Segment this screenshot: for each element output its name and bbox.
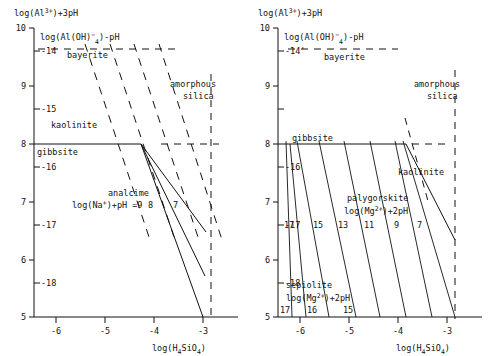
right-x-ticks [300,317,447,323]
right-label-gibbsite: gibbsite [292,133,333,143]
right-x-axis-label: log(H4SiO4) [396,343,450,356]
right-label-palygorskite: palygorskite [347,193,408,203]
right-mg-number-17: 17 [284,220,294,230]
right-sepiolite-number-15: 15 [343,305,353,315]
right-xtick--5: -5 [344,326,354,336]
left-series-number-7: 7 [173,200,178,210]
right-mg-boundary-11 [344,141,380,317]
left-yinner--17: -17 [41,220,56,230]
right-ytick-9: 9 [265,81,270,91]
left-xtick--4: -4 [149,326,159,336]
left-x-axis-label: log(H4SiO4) [152,343,206,356]
left-label-na-series: log(Na+)+pH =9 [72,199,142,211]
right-xtick--4: -4 [393,326,403,336]
right-ytick-8: 8 [265,139,270,149]
left-analcime-boundary-8 [141,144,205,276]
left-xtick--5: -5 [100,326,110,336]
right-xtick--6: -6 [295,326,305,336]
right-mg-number-15: 15 [313,220,323,230]
right-label-amorphous-silica-line1: amorphous [414,79,460,89]
right-y-outer-ticks [273,28,278,317]
left-xtick--3: -3 [198,326,208,336]
right-ytick-5: 5 [265,312,270,322]
left-yinner--16: -16 [41,162,56,172]
right-y-axis-inner-label: log(Al(OH)−4)-pH [284,31,364,46]
left-plot-svg: 10 9 8 7 6 5 -14 -15 -16 -17 -18 [0,0,244,356]
left-ytick-9: 9 [21,81,26,91]
right-ytick-7: 7 [265,197,270,207]
left-ytick-10: 10 [16,23,26,33]
left-axis-lines [34,28,238,317]
right-y-axis-outer-label: log(Al3+)+3pH [258,7,322,19]
left-ytick-7: 7 [21,197,26,207]
left-yinner--15: -15 [41,104,56,114]
left-label-amorphous-silica-line1: amorphous [170,79,216,89]
left-label-analcime: analcime [108,188,149,198]
figure-container: 10 9 8 7 6 5 -14 -15 -16 -17 -18 [0,0,488,356]
right-mg-number-13: 13 [338,220,348,230]
right-mg-number-9: 9 [394,220,399,230]
right-mg-number-11: 11 [364,220,374,230]
right-axis-lines [278,28,482,317]
left-y-outer-ticks [29,28,34,317]
left-x-ticks [56,317,203,323]
left-label-amorphous-silica-line2: silica [183,91,214,101]
right-sepiolite-number-17: 17 [280,305,290,315]
left-y-axis-outer-label: log(Al3+)+3pH [14,7,78,19]
right-plot-svg: 10 9 8 7 6 5 -14' -16 -17 -18 [244,0,488,356]
left-ytick-6: 6 [21,255,26,265]
right-xtick--3: -3 [442,326,452,336]
right-kaolinite-diagonal [406,144,455,240]
right-label-palygorskite-series: log(Mg2+)+2pH [344,205,408,217]
right-label-bayerite: bayerite [324,52,365,62]
right-yinner--14: -14' [285,46,305,56]
right-ytick-10: 10 [260,23,270,33]
left-label-gibbsite: gibbsite [37,147,78,157]
left-yinner--14: -14 [41,46,56,56]
right-label-amorphous-silica-line2: silica [427,91,458,101]
left-ytick-5: 5 [21,312,26,322]
left-series-number-8: 8 [148,200,153,210]
left-xtick--6: -6 [51,326,61,336]
right-label-sepiolite-series: log(Mg2+)+2pH [286,292,350,304]
left-analcime-boundary-9 [141,144,203,317]
diagram-panel-left: 10 9 8 7 6 5 -14 -15 -16 -17 -18 [0,0,244,356]
right-label-sepiolite: sepiolite [286,280,332,290]
right-mg-number-7: 7 [417,220,422,230]
right-curves [278,49,455,319]
right-label-kaolinite: kaolinite [398,167,444,177]
diagram-panel-right: 10 9 8 7 6 5 -14' -16 -17 -18 [244,0,488,356]
left-y-inner-ticks [34,51,40,283]
left-yinner--18: -18 [41,278,56,288]
right-sepiolite-number-16: 16 [307,305,317,315]
right-ytick-6: 6 [265,255,270,265]
left-analcime-boundary-7 [141,144,206,232]
right-y-inner-ticks [278,51,284,283]
left-y-axis-inner-label: log(Al(OH)−4)-pH [40,31,120,46]
left-label-bayerite: bayerite [67,50,108,60]
left-label-kaolinite: kaolinite [51,120,97,130]
left-ytick-8: 8 [21,139,26,149]
